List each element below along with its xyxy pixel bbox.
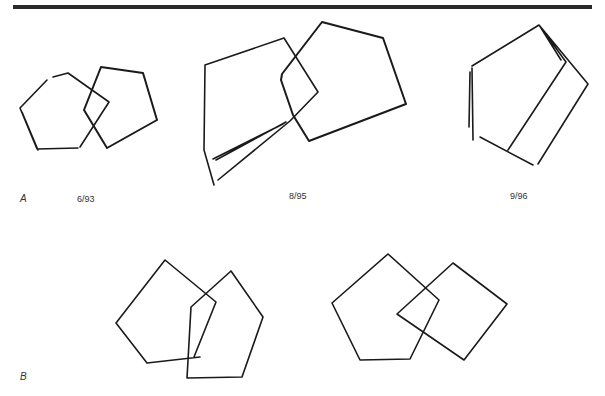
- date-label-8-95: 8/95: [289, 191, 307, 201]
- date-label-9-96: 9/96: [510, 191, 528, 201]
- drawing-b2: [332, 254, 507, 360]
- panel-label-b: B: [20, 371, 27, 382]
- drawing-a1: [20, 67, 157, 150]
- drawing-a3: [469, 25, 588, 165]
- drawing-a2: [204, 22, 406, 185]
- date-label-6-93: 6/93: [77, 194, 95, 204]
- panel-label-a: A: [20, 193, 27, 204]
- drawing-b1: [116, 260, 263, 378]
